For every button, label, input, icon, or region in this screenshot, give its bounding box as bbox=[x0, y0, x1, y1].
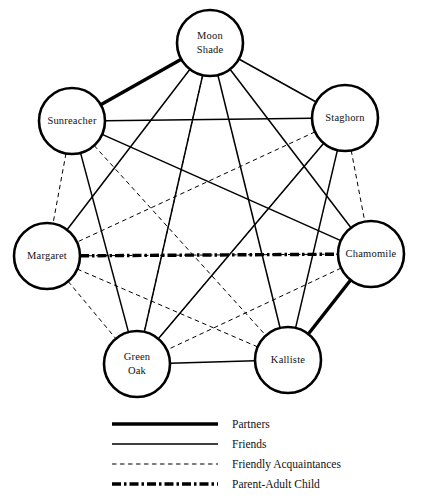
edge-chamomile-green_oak bbox=[167, 268, 341, 350]
edge-sunreacher-margaret bbox=[53, 153, 66, 223]
edge-sunreacher-staghorn bbox=[105, 118, 312, 120]
legend-layer: PartnersFriendsFriendly AcquaintancesPar… bbox=[112, 418, 341, 490]
edge-green_oak-kalliste bbox=[170, 361, 255, 363]
edge-staghorn-margaret bbox=[77, 132, 315, 242]
nodes-layer: MoonShadeSunreacherStaghornMargaretChamo… bbox=[14, 10, 404, 397]
node-label-sunreacher: Sunreacher bbox=[47, 115, 97, 126]
edge-staghorn-chamomile bbox=[351, 150, 365, 221]
node-circle-moon_shade bbox=[177, 10, 243, 76]
legend-label-friends: Friends bbox=[232, 438, 267, 450]
node-chamomile[interactable]: Chamomile bbox=[338, 221, 404, 287]
network-graph-canvas: MoonShadeSunreacherStaghornMargaretChamo… bbox=[0, 0, 421, 499]
node-sunreacher[interactable]: Sunreacher bbox=[39, 88, 105, 154]
edge-margaret-green_oak bbox=[68, 281, 116, 338]
edge-margaret-kalliste bbox=[77, 269, 257, 347]
legend-label-acquaintances: Friendly Acquaintances bbox=[232, 458, 341, 471]
edge-moon_shade-kalliste bbox=[218, 75, 280, 328]
node-circle-green_oak bbox=[104, 331, 170, 397]
node-moon_shade[interactable]: MoonShade bbox=[177, 10, 243, 76]
legend-label-parent_adult_child: Parent-Adult Child bbox=[232, 478, 320, 490]
legend-label-partners: Partners bbox=[232, 418, 270, 430]
node-label-green_oak-line2: Oak bbox=[128, 365, 147, 376]
legend-item-friends: Friends bbox=[112, 438, 267, 450]
edge-sunreacher-chamomile bbox=[102, 134, 341, 240]
node-kalliste[interactable]: Kalliste bbox=[255, 327, 321, 393]
node-margaret[interactable]: Margaret bbox=[14, 223, 80, 289]
edge-chamomile-kalliste bbox=[308, 280, 350, 334]
node-label-margaret: Margaret bbox=[27, 250, 67, 261]
node-label-kalliste: Kalliste bbox=[271, 354, 305, 365]
legend-item-partners: Partners bbox=[112, 418, 270, 430]
network-diagram: MoonShadeSunreacherStaghornMargaretChamo… bbox=[0, 0, 421, 499]
node-label-moon_shade-line2: Shade bbox=[197, 44, 224, 55]
edge-staghorn-kalliste bbox=[296, 150, 338, 328]
node-label-green_oak: Green bbox=[124, 351, 151, 362]
node-label-moon_shade: Moon bbox=[197, 30, 223, 41]
legend-item-acquaintances: Friendly Acquaintances bbox=[112, 458, 341, 471]
node-label-staghorn: Staghorn bbox=[325, 112, 365, 123]
node-label-chamomile: Chamomile bbox=[346, 248, 397, 259]
node-green_oak[interactable]: GreenOak bbox=[104, 331, 170, 397]
legend-item-parent_adult_child: Parent-Adult Child bbox=[112, 478, 320, 490]
edge-moon_shade-sunreacher bbox=[101, 59, 182, 105]
node-staghorn[interactable]: Staghorn bbox=[312, 85, 378, 151]
